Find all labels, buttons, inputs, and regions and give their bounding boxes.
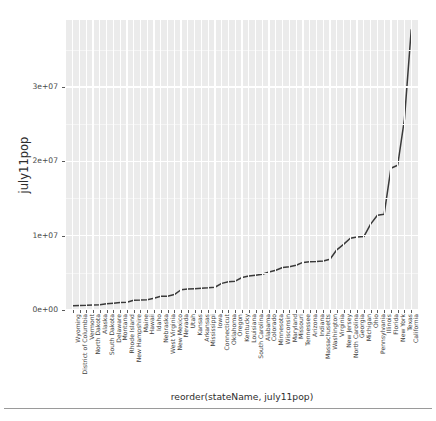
x-axis-tick-mark — [107, 310, 108, 313]
y-axis-tick-mark — [62, 236, 65, 237]
x-axis-tick-mark — [127, 310, 128, 313]
y-axis-tick-labels: 0e+001e+072e+073e+07 — [14, 0, 58, 421]
x-axis-tick-mark — [371, 310, 372, 313]
gridline-major-x — [404, 20, 405, 310]
x-axis-tick-mark — [208, 310, 209, 313]
gridline-major-x — [228, 20, 229, 310]
x-axis-tick-mark — [289, 310, 290, 313]
x-axis-tick-mark — [188, 310, 189, 313]
x-axis-tick-mark — [134, 310, 135, 313]
gridline-major-x — [397, 20, 398, 310]
gridline-major-x — [255, 20, 256, 310]
x-axis-tick-mark — [256, 310, 257, 313]
x-axis-tick-label: District of Columbia — [82, 314, 88, 374]
x-axis-tick-mark — [377, 310, 378, 313]
chart-figure: july11pop 0e+001e+072e+073e+07 WyomingDi… — [0, 0, 436, 421]
gridline-major-x — [275, 20, 276, 310]
x-axis-tick-mark — [161, 310, 162, 313]
x-axis-tick-label: Ohio — [373, 314, 379, 328]
gridline-major-x — [336, 20, 337, 310]
gridline-major-x — [126, 20, 127, 310]
x-axis-tick-mark — [262, 310, 263, 313]
gridline-major-x — [302, 20, 303, 310]
x-axis-tick-mark — [249, 310, 250, 313]
gridline-major-x — [86, 20, 87, 310]
x-axis-tick-mark — [391, 310, 392, 313]
x-axis-tick-mark — [303, 310, 304, 313]
gridline-major-x — [187, 20, 188, 310]
gridline-major-x — [72, 20, 73, 310]
gridline-major-x — [153, 20, 154, 310]
x-axis-tick-mark — [344, 310, 345, 313]
x-axis-tick-mark — [337, 310, 338, 313]
page-divider — [4, 408, 432, 409]
x-axis-tick-mark — [323, 310, 324, 313]
gridline-major-x — [309, 20, 310, 310]
x-axis-tick-mark — [168, 310, 169, 313]
x-axis-tick-mark — [147, 310, 148, 313]
x-axis-tick-mark — [269, 310, 270, 313]
x-axis-tick-mark — [93, 310, 94, 313]
y-axis-tick-mark — [62, 310, 65, 311]
gridline-major-x — [106, 20, 107, 310]
x-axis-tick-mark — [86, 310, 87, 313]
x-axis-tick-mark — [140, 310, 141, 313]
gridline-major-x — [323, 20, 324, 310]
gridline-major-x — [194, 20, 195, 310]
y-axis-tick-label: 2e+07 — [14, 157, 58, 165]
gridline-major-x — [99, 20, 100, 310]
x-axis-tick-mark — [310, 310, 311, 313]
gridline-major-x — [384, 20, 385, 310]
x-axis-tick-mark — [80, 310, 81, 313]
x-axis-tick-label: South Dakota — [109, 314, 115, 355]
x-axis-tick-mark — [195, 310, 196, 313]
x-axis-tick-mark — [181, 310, 182, 313]
gridline-major-x — [235, 20, 236, 310]
gridline-major-x — [241, 20, 242, 310]
x-axis-tick-mark — [411, 310, 412, 313]
gridline-major-x — [113, 20, 114, 310]
x-axis-tick-mark — [174, 310, 175, 313]
gridline-major-x — [268, 20, 269, 310]
x-axis-tick-mark — [316, 310, 317, 313]
y-axis-tick-mark — [62, 161, 65, 162]
x-axis-tick-mark — [357, 310, 358, 313]
gridline-major-x — [282, 20, 283, 310]
x-axis-tick-mark — [215, 310, 216, 313]
gridline-major-x — [208, 20, 209, 310]
gridline-major-x — [140, 20, 141, 310]
plot-panel — [66, 20, 418, 310]
gridline-major-x — [221, 20, 222, 310]
x-axis-tick-mark — [384, 310, 385, 313]
gridline-major-x — [316, 20, 317, 310]
x-axis-tick-mark — [222, 310, 223, 313]
x-axis-tick-label: South Carolina — [258, 314, 264, 359]
x-axis-tick-mark — [154, 310, 155, 313]
y-axis-tick-label: 1e+07 — [14, 232, 58, 240]
x-axis-tick-mark — [228, 310, 229, 313]
gridline-major-x — [289, 20, 290, 310]
x-axis-tick-mark — [235, 310, 236, 313]
y-axis-tick-mark — [62, 87, 65, 88]
x-axis-tick-mark — [276, 310, 277, 313]
gridline-major-x — [262, 20, 263, 310]
x-axis-tick-mark — [120, 310, 121, 313]
gridline-major-x — [201, 20, 202, 310]
gridline-major-x — [329, 20, 330, 310]
x-axis-tick-mark — [201, 310, 202, 313]
gridline-major-x — [343, 20, 344, 310]
x-axis-tick-mark — [296, 310, 297, 313]
x-axis-tick-label: Kansas — [197, 314, 203, 336]
gridline-major-x — [214, 20, 215, 310]
gridline-major-x — [411, 20, 412, 310]
gridline-major-y — [66, 86, 418, 87]
x-axis-tick-mark — [73, 310, 74, 313]
x-axis-tick-mark — [398, 310, 399, 313]
gridline-major-x — [160, 20, 161, 310]
gridline-major-x — [370, 20, 371, 310]
gridline-major-x — [167, 20, 168, 310]
gridline-major-x — [350, 20, 351, 310]
gridline-major-x — [363, 20, 364, 310]
x-axis-tick-mark — [404, 310, 405, 313]
gridline-major-x — [79, 20, 80, 310]
